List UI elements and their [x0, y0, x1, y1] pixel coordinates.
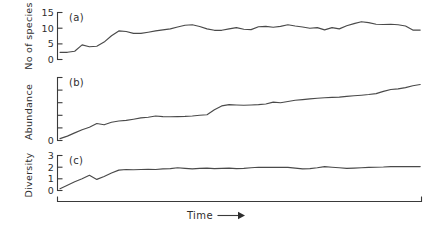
- panel-a-ytick-5: 5: [48, 38, 54, 49]
- panel-a: 15 10 5 0 (a) No of species: [23, 2, 420, 70]
- panel-c: 3 2 1 0 (c) Diversity: [23, 150, 420, 197]
- x-axis-title: Time: [186, 210, 213, 221]
- panel-c-ytick-0: 0: [48, 185, 54, 196]
- panel-c-ytick-1: 1: [48, 173, 54, 184]
- panel-c-y-axis-title: Diversity: [23, 152, 34, 197]
- x-axis: Time: [58, 197, 422, 222]
- panel-b: 0 (b) Abundance: [23, 77, 420, 146]
- panel-b-label: (b): [69, 77, 84, 88]
- panel-b-ytick-0: 0: [48, 135, 54, 146]
- panel-c-label: (c): [69, 155, 83, 166]
- x-axis-arrow-icon: [218, 212, 245, 219]
- panel-b-y-axis-title: Abundance: [23, 84, 34, 140]
- panel-a-data-curve: [60, 22, 420, 53]
- panel-a-ytick-15: 15: [42, 7, 55, 18]
- panel-b-y-ticks: [58, 78, 63, 141]
- panel-a-y-axis-title: No of species: [23, 2, 34, 70]
- figure-canvas: 15 10 5 0 (a) No of species 0 (b): [0, 0, 432, 234]
- panel-b-data-curve: [60, 85, 420, 139]
- panel-a-label: (a): [69, 12, 84, 23]
- panel-c-ytick-2: 2: [48, 162, 54, 173]
- panel-c-y-ticks: [58, 156, 63, 191]
- panel-c-data-curve: [60, 167, 420, 189]
- panel-c-ytick-3: 3: [48, 150, 54, 161]
- species-abundance-diversity-figure: 15 10 5 0 (a) No of species 0 (b): [0, 0, 432, 234]
- panel-a-ytick-0: 0: [48, 54, 54, 65]
- panel-a-ytick-10: 10: [42, 23, 55, 34]
